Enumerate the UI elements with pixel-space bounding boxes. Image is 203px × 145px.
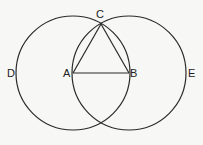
label-e: E [188, 67, 195, 79]
label-d: D [7, 67, 15, 79]
euclid-construction: C A B D E [0, 0, 203, 145]
label-c: C [96, 8, 104, 20]
label-a: A [63, 67, 71, 79]
label-b: B [130, 67, 137, 79]
diagram-canvas: C A B D E [0, 0, 203, 145]
